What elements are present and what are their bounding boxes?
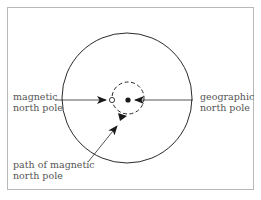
magnetic-pole-label: magnetic north pole: [13, 91, 63, 113]
path-label-line2: north pole: [13, 170, 95, 181]
geographic-north-pole-marker: [125, 97, 130, 102]
magnetic-pole-label-line1: magnetic: [13, 91, 63, 102]
path-pointer-arrow: [88, 126, 117, 162]
magnetic-pole-label-line2: north pole: [13, 102, 63, 113]
path-label-line1: path of magnetic: [13, 159, 95, 170]
geographic-pole-label: geographic north pole: [200, 91, 254, 113]
magnetic-north-pole-marker: [109, 97, 114, 102]
geographic-pole-label-line1: geographic: [200, 91, 254, 102]
path-label: path of magnetic north pole: [13, 159, 95, 181]
geographic-pole-label-line2: north pole: [200, 102, 254, 113]
diagram-figure: magnetic north pole geographic north pol…: [0, 0, 261, 200]
